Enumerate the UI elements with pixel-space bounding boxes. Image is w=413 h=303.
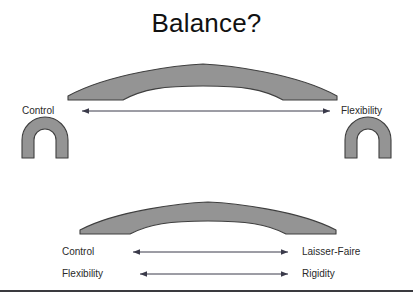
bottom-row-2-left-label: Flexibility (62, 268, 103, 280)
bottom-divider (0, 290, 413, 292)
right-arch-support (345, 117, 391, 158)
bottom-arrow-row-1 (133, 249, 288, 254)
top-left-label: Control (22, 105, 54, 117)
bottom-row-1-right-label: Laisser-Faire (302, 246, 360, 258)
top-right-label: Flexibility (341, 105, 382, 117)
bottom-row-1-left-label: Control (62, 246, 94, 258)
left-arch-support (22, 117, 68, 158)
bottom-beam-shape (80, 202, 336, 234)
top-beam-shape (68, 64, 337, 100)
bottom-arrow-row-2 (140, 271, 288, 276)
slide-canvas: Balance? Control (0, 0, 413, 303)
bottom-row-2-right-label: Rigidity (302, 268, 335, 280)
top-arrow (82, 108, 330, 113)
